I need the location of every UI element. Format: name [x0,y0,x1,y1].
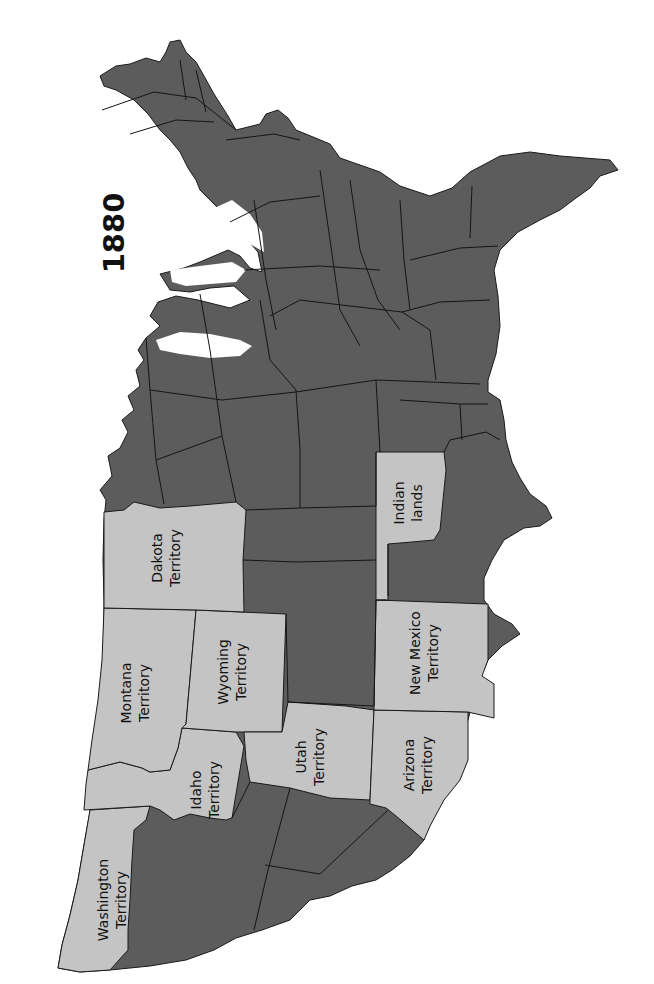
svg-text:Territory: Territory [425,624,441,683]
svg-text:Arizona: Arizona [401,739,417,792]
svg-text:Indian: Indian [391,481,407,524]
svg-text:Territory: Territory [311,728,327,787]
svg-text:Territory: Territory [113,871,129,930]
svg-text:lands: lands [409,484,425,522]
svg-text:Washington: Washington [95,859,111,941]
svg-text:Utah: Utah [293,740,309,773]
svg-text:Territory: Territory [136,664,152,723]
svg-text:New Mexico: New Mexico [407,611,423,695]
svg-text:Territory: Territory [167,529,183,588]
us-map-1880: 1880 Washington Territory Idaho Territor… [0,0,654,984]
svg-text:Territory: Territory [233,643,249,702]
svg-text:Territory: Territory [206,761,222,820]
map-title-year: 1880 [97,193,131,274]
svg-text:Idaho: Idaho [188,770,204,809]
svg-text:Montana: Montana [118,662,134,723]
svg-text:Territory: Territory [419,736,435,795]
svg-text:Wyoming: Wyoming [215,639,231,705]
svg-text:Dakota: Dakota [149,533,165,583]
